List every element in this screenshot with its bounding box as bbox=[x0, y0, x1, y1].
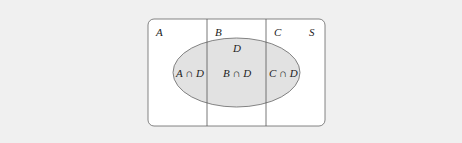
partition-label-b: B bbox=[215, 26, 222, 38]
intersection-b-d: B ∩ D bbox=[223, 67, 251, 79]
intersection-c-d: C ∩ D bbox=[269, 67, 298, 79]
universe-label-s: S bbox=[309, 26, 315, 38]
partition-label-c: C bbox=[274, 26, 282, 38]
venn-diagram: A B C S D A ∩ D B ∩ D C ∩ D bbox=[0, 0, 462, 143]
intersection-a-d: A ∩ D bbox=[175, 67, 204, 79]
partition-label-a: A bbox=[155, 26, 163, 38]
event-label-d: D bbox=[232, 42, 241, 54]
